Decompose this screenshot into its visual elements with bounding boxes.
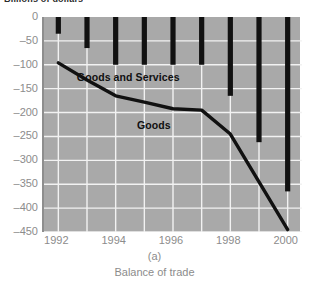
series-label: Goods and Services <box>77 71 180 83</box>
y-tick-label: –250 <box>0 129 38 141</box>
figure-balance-of-trade: Billions of dollars 0–50–100–150–200–250… <box>0 0 309 289</box>
y-tick-label: –150 <box>0 82 38 94</box>
y-tick-label: –300 <box>0 153 38 165</box>
data-layer <box>44 17 302 232</box>
bar <box>142 17 147 65</box>
bar <box>228 17 233 96</box>
bar <box>256 17 261 142</box>
caption-text: Balance of trade <box>0 266 309 278</box>
plot-area: Goods and ServicesGoods <box>42 17 300 232</box>
x-tick-label: 1996 <box>151 234 191 246</box>
bar <box>113 17 118 65</box>
y-tick-label: –200 <box>0 106 38 118</box>
bar <box>170 17 175 65</box>
bar <box>56 17 61 34</box>
x-tick-label: 1992 <box>36 234 76 246</box>
x-tick-label: 1994 <box>94 234 134 246</box>
series-label: Goods <box>137 119 171 131</box>
y-tick-label: –50 <box>0 34 38 46</box>
y-tick-label: –100 <box>0 58 38 70</box>
y-tick-label: –400 <box>0 201 38 213</box>
x-tick-label: 2000 <box>266 234 306 246</box>
bar <box>84 17 89 48</box>
x-tick-label: 1998 <box>208 234 248 246</box>
bar <box>199 17 204 65</box>
bar <box>285 17 290 191</box>
line-series-goods <box>58 63 287 230</box>
y-tick-label: –450 <box>0 225 38 237</box>
axis-title: Billions of dollars <box>4 0 83 2</box>
y-tick-label: –350 <box>0 177 38 189</box>
caption-letter: (a) <box>0 250 309 262</box>
y-tick-label: 0 <box>0 10 38 22</box>
